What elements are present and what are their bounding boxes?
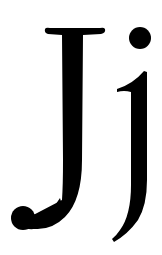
glyph-art — [0, 0, 162, 255]
uppercase-j — [11, 28, 105, 230]
glyph-specimen: Jj — [0, 0, 162, 255]
lowercase-j — [112, 27, 151, 242]
